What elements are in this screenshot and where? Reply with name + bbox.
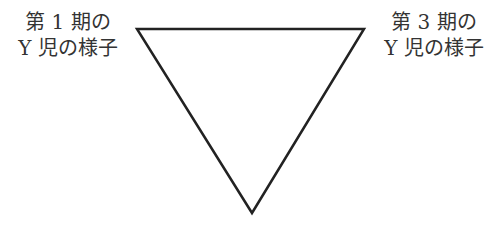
inverted-triangle-diagram xyxy=(0,0,494,240)
triangle-shape xyxy=(137,29,364,213)
